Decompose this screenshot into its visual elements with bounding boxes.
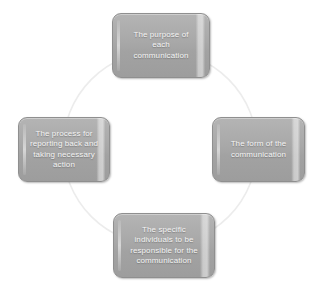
node-process-label: The process for reporting back and takin… [21,129,107,171]
node-form[interactable]: The form of the communication [212,117,305,182]
node-form-label: The form of the communication [222,139,296,160]
node-individuals-label: The specific individuals to be responsib… [121,225,207,267]
node-individuals[interactable]: The specific individuals to be responsib… [113,213,215,278]
node-purpose-label: The purpose of each communication [124,30,197,62]
node-purpose[interactable]: The purpose of each communication [112,13,210,78]
cycle-diagram: The purpose of each communication The pr… [0,0,320,298]
node-process[interactable]: The process for reporting back and takin… [18,117,110,182]
